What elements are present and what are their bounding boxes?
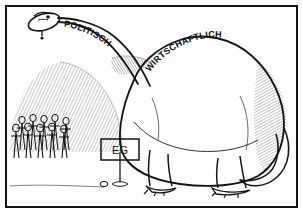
cartoon-drawing: POLITISCH WIRTSCHAFTLICH bbox=[0, 0, 303, 213]
head-drip-dot bbox=[40, 36, 43, 39]
cartoon-frame: POLITISCH WIRTSCHAFTLICH bbox=[0, 0, 303, 213]
dinosaur-eye bbox=[46, 15, 50, 19]
sign-text-eg: EG bbox=[112, 144, 128, 156]
